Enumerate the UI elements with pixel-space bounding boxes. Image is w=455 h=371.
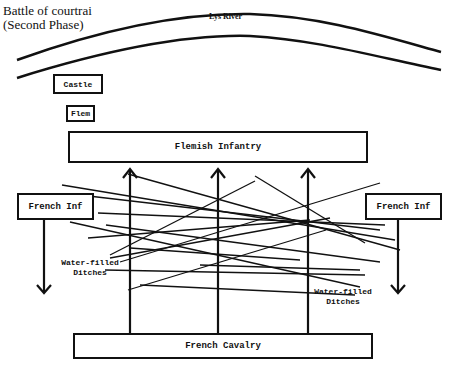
title-line-2: (Second Phase) — [3, 18, 92, 32]
french-inf-right-label: French Inf — [376, 202, 430, 212]
flemish-infantry-label: Flemish Infantry — [175, 142, 261, 152]
castle-label: Castle — [64, 80, 93, 89]
ditches-left-label: Water-filled Ditches — [55, 258, 125, 278]
french-inf-right-box: French Inf — [365, 193, 442, 220]
diagram-title: Battle of courtrai (Second Phase) — [3, 4, 92, 32]
french-cavalry-label: French Cavalry — [185, 341, 261, 351]
flem-box: Flem — [66, 105, 95, 122]
french-cavalry-box: French Cavalry — [73, 333, 373, 359]
ditches-right-label: Water-filled Ditches — [308, 287, 378, 307]
flemish-infantry-box: Flemish Infantry — [68, 131, 368, 163]
french-inf-left-label: French Inf — [28, 202, 82, 212]
castle-box: Castle — [53, 74, 103, 94]
title-line-1: Battle of courtrai — [3, 4, 92, 18]
diagram-canvas — [0, 0, 455, 371]
river-bank-lower — [17, 36, 441, 78]
flem-label: Flem — [71, 109, 90, 118]
lys-river-label: Lys River — [209, 12, 242, 21]
french-inf-left-box: French Inf — [17, 193, 94, 220]
